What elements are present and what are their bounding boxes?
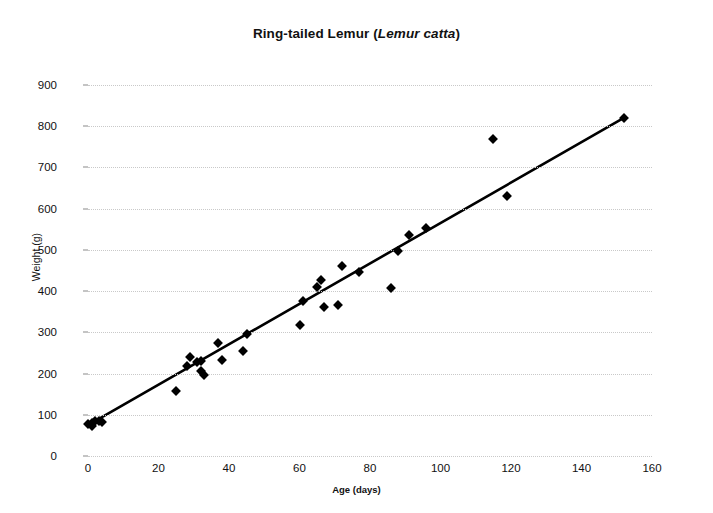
gridline-y-100: [88, 415, 652, 416]
chart-title-common: Ring-tailed Lemur (: [253, 26, 378, 41]
data-point: [319, 302, 329, 312]
gridline-y-800: [88, 126, 652, 127]
x-tick-label-80: 80: [350, 462, 390, 474]
chart-title-close: ): [455, 26, 460, 41]
data-point: [421, 223, 431, 233]
gridline-y-900: [88, 85, 652, 86]
y-tick-label-700: 700: [11, 161, 57, 173]
x-tick-label-140: 140: [562, 462, 602, 474]
y-tick-label-500: 500: [11, 244, 57, 256]
data-point: [217, 355, 227, 365]
gridline-y-200: [88, 374, 652, 375]
x-tick-label-100: 100: [421, 462, 461, 474]
data-point: [488, 134, 498, 144]
y-tick-label-900: 900: [11, 79, 57, 91]
data-point: [171, 386, 181, 396]
gridline-y-300: [88, 332, 652, 333]
data-point: [213, 339, 223, 349]
data-point: [354, 267, 364, 277]
data-point: [619, 113, 629, 123]
chart-title: Ring-tailed Lemur (Lemur catta): [0, 26, 713, 41]
y-tick-label-300: 300: [11, 326, 57, 338]
plot-area: 020406080100120140160: [88, 85, 652, 456]
data-point: [337, 261, 347, 271]
x-tick-label-40: 40: [209, 462, 249, 474]
data-point: [242, 329, 252, 339]
x-axis-label: Age (days): [0, 484, 713, 495]
y-tick-label-100: 100: [11, 409, 57, 421]
x-tick-label-120: 120: [491, 462, 531, 474]
gridline-y-500: [88, 250, 652, 251]
x-tick-label-160: 160: [632, 462, 672, 474]
y-tick-label-400: 400: [11, 285, 57, 297]
chart-title-species: Lemur catta: [378, 26, 456, 41]
data-point: [199, 370, 209, 380]
gridline-y-0: [88, 456, 652, 457]
data-point: [393, 246, 403, 256]
y-tick-label-600: 600: [11, 203, 57, 215]
gridline-y-700: [88, 167, 652, 168]
y-tick-label-800: 800: [11, 120, 57, 132]
data-point: [404, 230, 414, 240]
data-point: [295, 320, 305, 330]
data-point: [333, 300, 343, 310]
x-tick-label-20: 20: [139, 462, 179, 474]
data-point: [238, 346, 248, 356]
data-point: [298, 296, 308, 306]
gridline-y-400: [88, 291, 652, 292]
x-tick-label-0: 0: [68, 462, 108, 474]
y-axis-tick-container: 0100200300400500600700800900: [0, 0, 88, 513]
y-tick-label-0: 0: [11, 450, 57, 462]
x-tick-label-60: 60: [280, 462, 320, 474]
data-point: [182, 361, 192, 371]
scatter-chart: Ring-tailed Lemur (Lemur catta) Weight (…: [0, 0, 713, 513]
trend-line: [88, 85, 652, 456]
gridline-y-600: [88, 209, 652, 210]
y-tick-label-200: 200: [11, 368, 57, 380]
data-point: [503, 191, 513, 201]
